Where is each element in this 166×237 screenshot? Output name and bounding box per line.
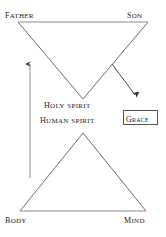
diagram-canvas: Father Son Holy Spirit Human Spirit Body… [0,0,166,237]
label-father: Father [5,9,34,20]
label-son: Son [127,9,142,20]
lower-triangle [20,133,146,211]
label-human-spirit: Human Spirit [40,114,95,125]
label-grace: Grace [126,112,149,125]
triangle-edge-spirit-body [20,133,83,211]
triangle-edge-son-spirit [83,22,148,99]
triangle-edge-father-spirit [18,22,83,99]
grace-box: Grace [123,110,158,125]
label-holy-spirit: Holy Spirit [44,99,91,110]
upper-triangle [18,22,148,99]
triangle-edge-spirit-mind [83,133,146,211]
grace-arrow-icon [112,64,135,95]
label-mind: Mind [124,214,145,225]
label-body: Body [5,214,27,225]
